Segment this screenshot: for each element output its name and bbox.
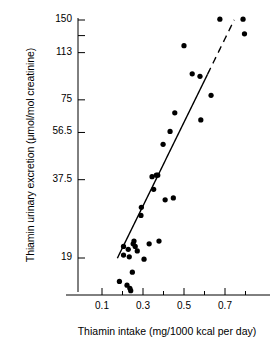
data-point [172,110,177,115]
data-point [190,71,195,76]
fit-curve-solid [117,74,207,258]
x-axis-ticks [102,288,246,295]
y-tick-label: 19 [20,251,72,262]
data-point [117,279,122,284]
data-point [121,244,126,249]
y-axis-label: Thiamin urinary excretion (μmol/mol crea… [24,25,38,285]
data-point [139,205,144,210]
data-point [131,238,136,243]
data-points [117,17,247,294]
x-axis-label: Thiamin intake (mg/1000 kcal per day) [60,325,274,337]
x-tick-label: 0.7 [210,300,240,311]
y-tick-label: 150 [20,13,72,24]
data-point [198,117,203,122]
data-point [217,17,222,22]
x-tick-label: 0.5 [169,300,199,311]
data-point [121,252,126,257]
data-point [197,74,202,79]
fit-curve-dashed [208,20,235,74]
data-point [126,247,131,252]
x-tick-label: 0.3 [128,300,158,311]
data-point [156,238,161,243]
data-point [163,197,168,202]
data-point [171,195,176,200]
data-point [242,31,247,36]
data-point [181,43,186,48]
y-tick-label: 75 [20,93,72,104]
data-point [135,248,140,253]
x-tick-label: 0.1 [87,300,117,311]
data-point [240,17,245,22]
data-point [133,244,138,249]
y-tick-label: 56.5 [20,125,72,136]
y-tick-label: 113 [20,46,72,57]
data-point [160,142,165,147]
data-point [151,187,156,192]
data-point [130,270,135,275]
y-axis-ticks [78,20,85,258]
data-point [127,254,132,259]
data-point [208,93,213,98]
data-point [141,257,146,262]
data-point [138,213,143,218]
chart-figure: Thiamin urinary excretion (μmol/mol crea… [0,0,274,351]
data-point [128,288,133,293]
data-point [155,173,160,178]
data-point [167,129,172,134]
data-point [147,241,152,246]
y-tick-label: 37.5 [20,173,72,184]
